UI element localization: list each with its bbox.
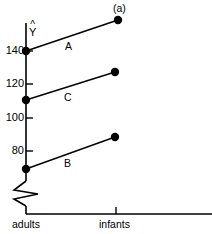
series-label-a: A — [65, 41, 72, 52]
y-tick-label-140: 140 — [0, 45, 24, 56]
axis-break-zigzag — [14, 181, 38, 206]
series-label-b: B — [64, 158, 71, 169]
interaction-plot-figure: (a) ^ Y 140 120 100 80 A C B adults infa… — [0, 0, 212, 234]
y-axis-title: ^ Y — [29, 27, 36, 38]
y-axis-title-symbol: ^ Y — [29, 27, 36, 38]
x-category-label-adults: adults — [12, 219, 40, 230]
data-point-c-infants[interactable] — [111, 68, 119, 76]
data-point-b-adults[interactable] — [22, 165, 30, 173]
data-point-b-infants[interactable] — [111, 133, 119, 141]
panel-label: (a) — [113, 3, 126, 14]
caret-accent-icon: ^ — [30, 20, 35, 30]
x-category-label-infants: infants — [99, 219, 130, 230]
data-point-c-adults[interactable] — [22, 96, 30, 104]
y-tick-label-100: 100 — [0, 112, 24, 123]
data-point-a-infants[interactable] — [114, 16, 122, 24]
y-tick-label-80: 80 — [0, 145, 24, 156]
y-tick-label-120: 120 — [0, 78, 24, 89]
series-label-c: C — [64, 92, 72, 103]
